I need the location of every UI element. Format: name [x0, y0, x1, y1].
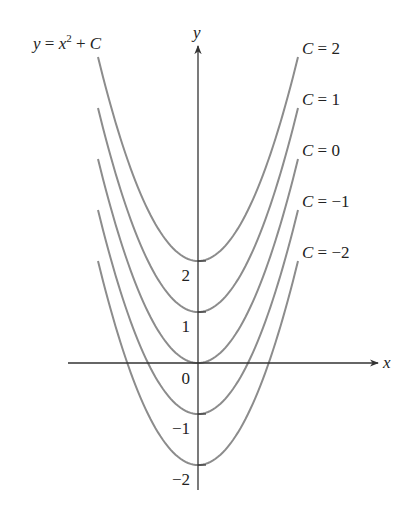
y-tick-label: −1 [172, 419, 190, 438]
curve-label: C = 0 [302, 141, 340, 160]
curve-label: C = 1 [302, 90, 340, 109]
y-tick-label: 0 [182, 369, 191, 388]
curve-label: C = −2 [302, 243, 350, 262]
y-tick-label: −2 [172, 470, 190, 489]
x-axis-label: x [382, 353, 391, 372]
y-tick-label: 1 [182, 317, 191, 336]
y-tick-label: 2 [182, 266, 191, 285]
family-of-parabolas-plot: x y y = x2 + C 210−1−2 C = 2C = 1C = 0C … [0, 0, 408, 510]
y-axis-label: y [191, 23, 201, 42]
curve-label: C = −1 [302, 192, 350, 211]
curve-label: C = 2 [302, 39, 340, 58]
y-tick-labels: 210−1−2 [172, 266, 190, 489]
curve-labels: C = 2C = 1C = 0C = −1C = −2 [302, 39, 350, 262]
chart-title: y = x2 + C [31, 32, 102, 53]
